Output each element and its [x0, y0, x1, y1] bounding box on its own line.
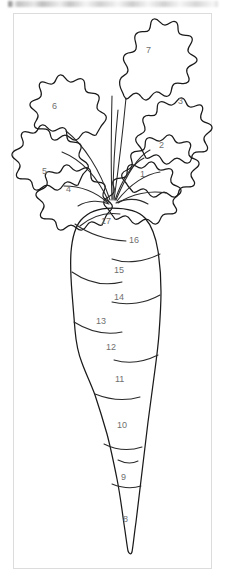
- region-number-2: 2: [159, 141, 164, 150]
- region-number-5: 5: [42, 167, 47, 176]
- region-number-16: 16: [129, 236, 139, 245]
- region-number-1: 1: [140, 170, 145, 179]
- region-number-14: 14: [114, 293, 124, 302]
- region-number-13: 13: [96, 317, 106, 326]
- region-number-9: 9: [121, 473, 126, 482]
- region-number-4: 4: [66, 185, 71, 194]
- region-number-15: 15: [114, 266, 124, 275]
- region-number-12: 12: [106, 343, 116, 352]
- region-number-6: 6: [52, 102, 57, 111]
- coloring-page-screen: 7 6 3 2 5 1 4 17 16 15 14 13 12 11 10 9 …: [0, 0, 226, 579]
- blurred-text-row: [8, 1, 218, 7]
- region-number-17: 17: [101, 217, 111, 226]
- region-number-7: 7: [146, 46, 151, 55]
- top-blurred-text-strip: [0, 0, 226, 9]
- region-number-10: 10: [117, 421, 127, 430]
- region-number-8: 8: [123, 515, 128, 524]
- region-number-11: 11: [115, 375, 124, 384]
- region-number-3: 3: [178, 97, 183, 106]
